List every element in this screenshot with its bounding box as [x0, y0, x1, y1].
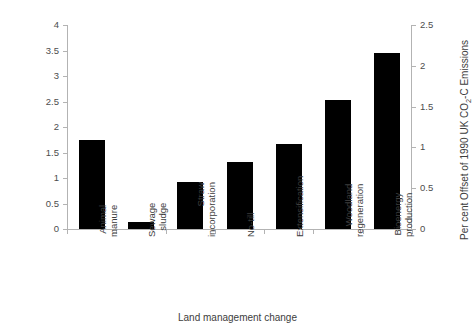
plot-area: 00.511.522.533.54 00.511.522.5 Animalman… — [67, 25, 412, 229]
y-axis-left-tick — [63, 127, 68, 128]
chart-figure: 00.511.522.533.54 00.511.522.5 Animalman… — [0, 0, 475, 331]
y-axis-left-tick — [63, 102, 68, 103]
x-axis-tick — [264, 229, 265, 234]
y-axis-left-tick-label: 0 — [33, 224, 59, 234]
y-axis-right-tick — [411, 107, 416, 108]
x-axis-title: Land management change — [0, 312, 475, 323]
y-axis-left-tick-label: 4 — [33, 20, 59, 30]
y-axis-left-tick-label: 1.5 — [33, 148, 59, 158]
y-axis-right-tick-label: 1 — [420, 142, 425, 152]
y-axis-right-tick — [411, 66, 416, 67]
x-axis-category-label: Extensification — [294, 176, 305, 237]
y-axis-right-tick-label: 1.5 — [420, 102, 433, 112]
y-axis-left-tick — [63, 25, 68, 26]
y-axis-left-tick-label: 1 — [33, 173, 59, 183]
y-axis-left-tick — [63, 153, 68, 154]
y-axis-left-tick — [63, 178, 68, 179]
y-axis-left-tick — [63, 51, 68, 52]
y-axis-left-tick-label: 3.5 — [33, 46, 59, 56]
y-axis-left-tick — [63, 204, 68, 205]
y-axis-right-tick-label: 2 — [420, 61, 425, 71]
x-axis-tick — [67, 229, 68, 234]
y-axis-left-tick-label: 3 — [33, 71, 59, 81]
y-axis-right-tick-label: 2.5 — [420, 20, 433, 30]
y-axis-left-tick-label: 2.5 — [33, 97, 59, 107]
y-axis-right-tick-label: 0 — [420, 224, 425, 234]
x-axis-category-label: Sewagesludge — [146, 203, 168, 237]
x-axis-category-label: Woodlandregeneration — [343, 184, 365, 237]
y-axis-right-tick-label: 0.5 — [420, 183, 433, 193]
x-axis-category-label: Bioenergyproduction — [392, 193, 414, 237]
x-axis-category-label: No-till — [245, 213, 256, 237]
y-axis-right-tick — [411, 147, 416, 148]
x-axis-category-label: Strawincorporation — [195, 182, 217, 237]
y-axis-left-tick-label: 0.5 — [33, 199, 59, 209]
y-axis-right-tick — [411, 25, 416, 26]
x-axis-tick — [313, 229, 314, 234]
y-axis-right-title-text: Per cent Offset of 1990 UK CO2-C Emissio… — [459, 40, 470, 240]
y-axis-left-tick-label: 2 — [33, 122, 59, 132]
y-axis-right-tick — [411, 188, 416, 189]
y-axis-right-title: Per cent Offset of 1990 UK CO2-C Emissio… — [459, 40, 473, 240]
x-axis-category-label: Animalmanure — [97, 205, 119, 237]
y-axis-left-tick — [63, 76, 68, 77]
